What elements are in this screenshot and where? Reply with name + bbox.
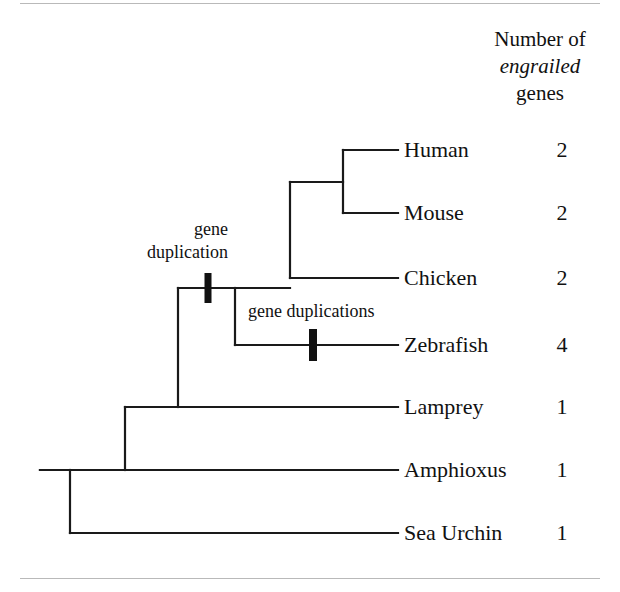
gene-count-column-header: Number of engrailed genes xyxy=(470,26,610,107)
tip-label-chicken: Chicken xyxy=(404,267,477,289)
gene-count-chicken: 2 xyxy=(542,267,582,289)
tip-label-amphioxus: Amphioxus xyxy=(404,459,507,481)
tip-label-mouse: Mouse xyxy=(404,202,464,224)
phylogenetic-tree-figure: Number of engrailed genes Human2Mouse2Ch… xyxy=(0,0,620,592)
gene-count-mouse: 2 xyxy=(542,202,582,224)
gene-count-sea-urchin: 1 xyxy=(542,522,582,544)
column-header-gene-name: engrailed xyxy=(470,53,610,80)
duplication-tick-gene-duplication-vertebrate xyxy=(205,273,212,303)
annotation-line: duplication xyxy=(28,241,228,264)
tip-label-sea-urchin: Sea Urchin xyxy=(404,522,502,544)
annotation-line: gene xyxy=(28,218,228,241)
annotation-gene-duplications-zebrafish: gene duplications xyxy=(248,300,374,323)
gene-count-lamprey: 1 xyxy=(542,396,582,418)
figure-bottom-rule xyxy=(20,578,600,579)
column-header-line-1: Number of xyxy=(470,26,610,53)
gene-count-human: 2 xyxy=(542,139,582,161)
tip-label-lamprey: Lamprey xyxy=(404,396,483,418)
tip-label-zebrafish: Zebrafish xyxy=(404,334,488,356)
annotation-gene-duplication-vertebrate: geneduplication xyxy=(28,218,228,264)
gene-count-zebrafish: 4 xyxy=(542,334,582,356)
figure-top-rule xyxy=(20,3,600,4)
annotation-line: gene duplications xyxy=(248,300,374,323)
column-header-line-3: genes xyxy=(470,80,610,107)
gene-count-amphioxus: 1 xyxy=(542,459,582,481)
tip-label-human: Human xyxy=(404,139,469,161)
duplication-tick-gene-duplications-zebrafish xyxy=(309,329,317,361)
